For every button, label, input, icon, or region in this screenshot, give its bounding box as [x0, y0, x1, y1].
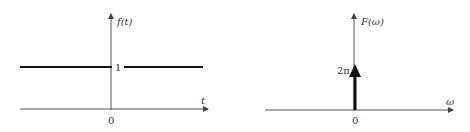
level-label: 1 [115, 62, 121, 73]
F-axis-label: F(ω) [360, 16, 384, 27]
origin-label-right: 0 [352, 115, 358, 126]
impulse-arrowhead [349, 64, 361, 77]
fourier-transform-diagram: f(t) t 0 1 F(ω) ω 0 2π [0, 0, 470, 132]
t-axis-label: t [201, 95, 206, 106]
f-axis-label: f(t) [116, 16, 133, 27]
frequency-domain-plot: F(ω) ω 0 2π [265, 14, 454, 126]
origin-label-left: 0 [108, 115, 114, 126]
omega-axis-label: ω [446, 96, 454, 107]
impulse-weight-label: 2π [337, 65, 350, 76]
time-domain-plot: f(t) t 0 1 [20, 14, 208, 126]
